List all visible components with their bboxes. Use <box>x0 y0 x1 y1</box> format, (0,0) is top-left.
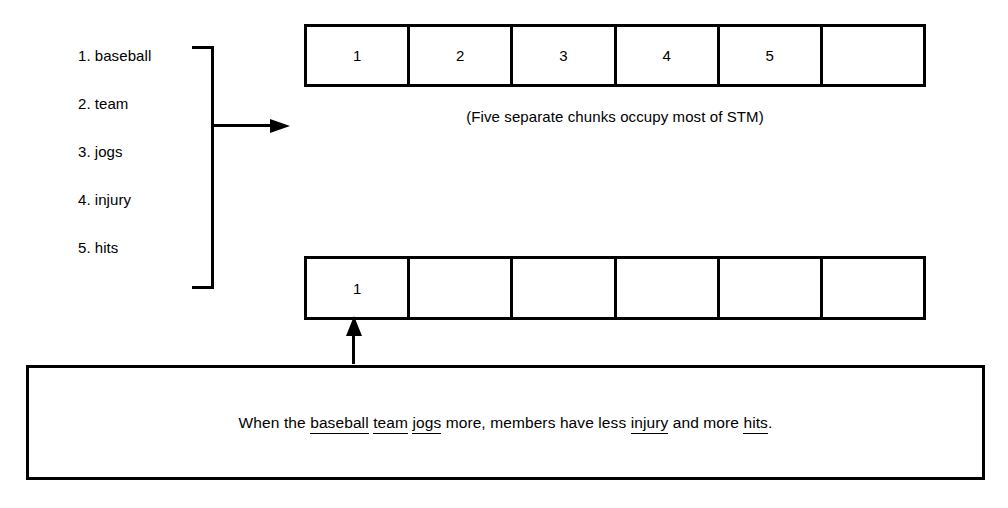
word-list-item: 1.baseball <box>78 48 198 96</box>
word-list-item: 3.jogs <box>78 144 198 192</box>
stm-cell: 1 <box>307 27 410 84</box>
stm-cell: 3 <box>513 27 616 84</box>
sentence-chunk-word: team <box>373 414 408 434</box>
word-list-item-label: baseball <box>95 47 152 64</box>
sentence-chunk-word: injury <box>631 414 669 434</box>
word-list-item-label: injury <box>95 191 131 208</box>
sentence-chunk-word: jogs <box>412 414 441 434</box>
word-list-item-number: 5. <box>78 239 91 256</box>
stm-cell: 1 <box>307 259 410 317</box>
stm-cell <box>513 259 616 317</box>
word-list-item-label: hits <box>95 239 119 256</box>
word-list-item-label: team <box>95 95 129 112</box>
top-stm-row: 12345 <box>304 24 926 87</box>
sentence-chunk-word: hits <box>743 414 768 434</box>
stm-caption: (Five separate chunks occupy most of STM… <box>304 108 926 125</box>
stm-cell <box>720 259 823 317</box>
stm-cell: 4 <box>617 27 720 84</box>
sentence-plain-text: When the <box>239 414 311 431</box>
word-list: 1.baseball2.team3.jogs4.injury5.hits <box>78 48 198 288</box>
diagram-canvas: 1.baseball2.team3.jogs4.injury5.hits 123… <box>0 0 1008 508</box>
stm-cell: 2 <box>410 27 513 84</box>
sentence-plain-text: more, members have less <box>441 414 630 431</box>
grouping-bracket <box>192 46 214 289</box>
bracket-spine <box>211 46 214 289</box>
stm-cell <box>617 259 720 317</box>
bracket-bottom-arm <box>192 286 214 289</box>
word-list-item: 2.team <box>78 96 198 144</box>
sentence-plain-text: . <box>768 414 772 431</box>
sentence-chunk-word: baseball <box>310 414 369 434</box>
arrow-up-shaft <box>352 324 355 364</box>
word-list-item-number: 4. <box>78 191 91 208</box>
arrow-right-shaft <box>212 124 274 127</box>
word-list-item-number: 2. <box>78 95 91 112</box>
stm-cell <box>410 259 513 317</box>
sentence-text: When the baseball team jogs more, member… <box>239 414 773 432</box>
word-list-item-label: jogs <box>95 143 123 160</box>
stm-cell <box>823 259 923 317</box>
stm-cell <box>823 27 923 84</box>
stm-cell: 5 <box>720 27 823 84</box>
sentence-box: When the baseball team jogs more, member… <box>26 365 985 480</box>
arrow-up-icon <box>352 316 355 364</box>
arrow-right-icon <box>212 124 290 127</box>
bottom-stm-row: 1 <box>304 256 926 320</box>
word-list-item-number: 3. <box>78 143 91 160</box>
word-list-item: 5.hits <box>78 240 198 288</box>
word-list-item: 4.injury <box>78 192 198 240</box>
word-list-item-number: 1. <box>78 47 91 64</box>
arrow-right-head <box>270 119 290 133</box>
sentence-plain-text: and more <box>668 414 743 431</box>
